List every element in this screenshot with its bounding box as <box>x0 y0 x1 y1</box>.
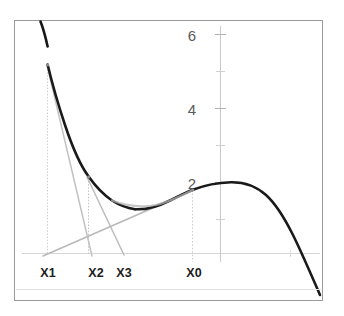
y-tick-label-4: 4 <box>188 101 196 118</box>
x-label-x1: X1 <box>40 266 56 280</box>
x-label-x2: X2 <box>88 266 104 280</box>
x-label-x0: X0 <box>186 266 202 280</box>
point-x0-on-curve <box>191 188 194 191</box>
x-label-x3: X3 <box>116 266 132 280</box>
y-tick-label-6: 6 <box>188 27 196 44</box>
point-x1-on-curve <box>46 63 49 66</box>
point-x2-on-curve <box>87 175 90 178</box>
plot-frame <box>15 21 323 301</box>
tangent-iteration-plot: 6 4 2 <box>0 0 344 316</box>
figure-container: 6 4 2 <box>0 0 344 316</box>
